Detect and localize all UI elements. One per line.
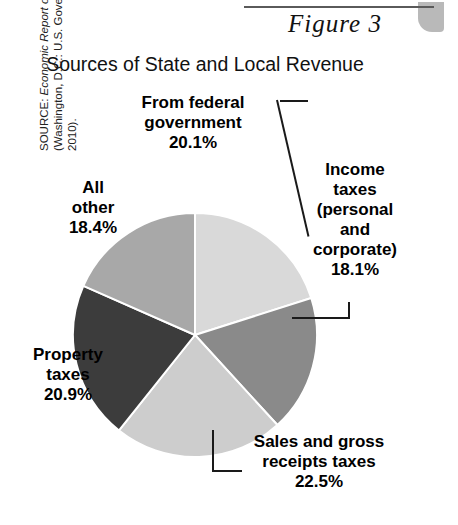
source-rest: (Washington, D.C.: U.S. Government Print…: [52, 0, 78, 151]
slice-label-income-line4: and: [340, 220, 370, 239]
figure-container: Figure 3 Sources of State and Local Reve…: [0, 0, 458, 525]
leader-line-income-vertical: [348, 302, 350, 319]
source-note: SOURCE: Economic Report of the President…: [37, 99, 79, 399]
pie-chart: [72, 212, 318, 458]
slice-value-federal: 20.1%: [108, 133, 278, 153]
slice-label-income-line5: corporate): [313, 240, 397, 259]
source-prefix: SOURCE:: [38, 95, 50, 151]
slice-label-income-line2: taxes: [333, 180, 376, 199]
slice-label-income-line3: (personal: [317, 200, 394, 219]
slice-label-federal-line1: From federal: [142, 93, 245, 112]
leader-line-income: [292, 317, 350, 319]
slice-value-sales: 22.5%: [216, 472, 422, 492]
slice-label-income-line1: Income: [325, 160, 385, 179]
slice-label-federal-line2: government: [144, 113, 241, 132]
header-rule: [244, 6, 434, 8]
figure-number: Figure 3: [250, 10, 420, 38]
slice-label-income: Income taxes (personal and corporate) 18…: [296, 160, 414, 280]
source-title: Economic Report of the President, 2010: [38, 0, 50, 95]
slice-label-sales-line1: Sales and gross: [254, 432, 384, 451]
leader-line-federal: [280, 100, 308, 102]
slice-label-allother-line1: All: [82, 178, 104, 197]
slice-label-federal: From federal government 20.1%: [108, 93, 278, 153]
leader-line-sales-vertical: [212, 430, 214, 472]
slice-value-income: 18.1%: [296, 260, 414, 280]
slice-label-sales: Sales and gross receipts taxes 22.5%: [216, 432, 422, 492]
pie-chart-svg: [72, 212, 318, 458]
slice-label-sales-line2: receipts taxes: [262, 452, 375, 471]
